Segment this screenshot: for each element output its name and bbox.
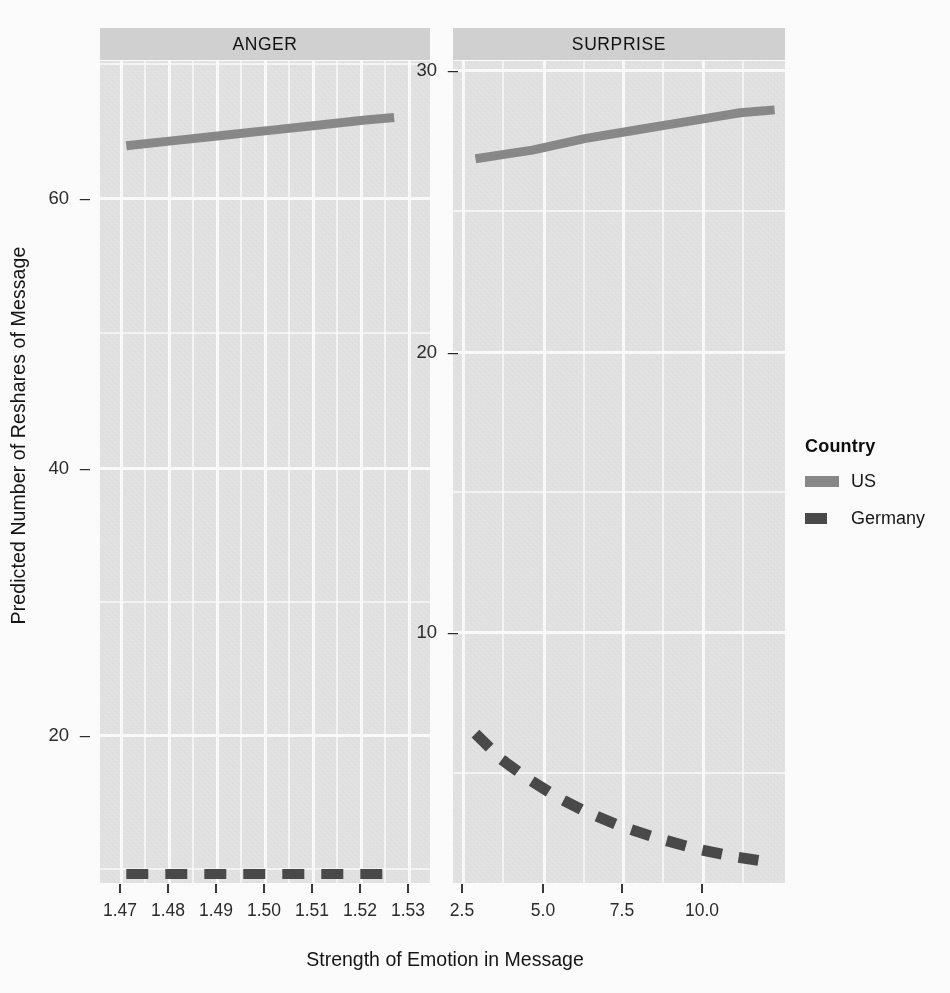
legend-item-us[interactable]: US	[805, 471, 945, 492]
x-tick-mark-anger	[407, 884, 409, 893]
x-tick-label-anger: 1.50	[247, 900, 281, 921]
y-tick-label-anger: 60–	[44, 187, 90, 209]
x-tick-mark-anger	[119, 884, 121, 893]
facet-strip-anger: ANGER	[100, 28, 430, 60]
series-layer-anger	[100, 61, 430, 883]
chart-figure: Predicted Number of Reshares of Message …	[0, 0, 950, 993]
x-tick-label-surprise: 5.0	[531, 900, 555, 921]
line-series-germany-surprise	[475, 734, 774, 863]
series-layer-surprise	[453, 61, 785, 883]
x-tick-label-anger: 1.49	[199, 900, 233, 921]
x-tick-mark-surprise	[701, 884, 703, 893]
line-series-us-surprise	[475, 110, 774, 159]
legend-label-us: US	[851, 471, 876, 492]
x-tick-label-surprise: 7.5	[610, 900, 634, 921]
facet-strip-surprise: SURPRISE	[453, 28, 785, 60]
x-tick-mark-anger	[215, 884, 217, 893]
x-tick-mark-anger	[167, 884, 169, 893]
legend-key-germany-line-icon	[805, 513, 827, 524]
legend: Country US Germany	[805, 436, 945, 545]
x-tick-mark-surprise	[542, 884, 544, 893]
facet-strip-label-anger: ANGER	[232, 34, 297, 55]
x-tick-label-surprise: 10.0	[685, 900, 719, 921]
facet-strip-label-surprise: SURPRISE	[572, 34, 666, 55]
x-tick-label-anger: 1.52	[343, 900, 377, 921]
legend-item-germany[interactable]: Germany	[805, 508, 945, 529]
panel-anger	[100, 61, 430, 883]
legend-key-us-line-icon	[805, 476, 839, 487]
legend-label-germany: Germany	[851, 508, 925, 529]
x-tick-mark-anger	[263, 884, 265, 893]
y-tick-label-anger: 40–	[44, 457, 90, 479]
y-axis-title: Predicted Number of Reshares of Message	[2, 0, 36, 870]
y-tick-label-anger: 20–	[44, 724, 90, 746]
legend-title: Country	[805, 436, 945, 457]
y-tick-label-surprise: 20–	[412, 341, 458, 363]
y-tick-label-surprise: 10–	[412, 621, 458, 643]
y-tick-label-surprise: 30–	[412, 59, 458, 81]
x-tick-mark-anger	[311, 884, 313, 893]
x-tick-label-anger: 1.53	[391, 900, 425, 921]
x-axis-title: Strength of Emotion in Message	[0, 948, 950, 971]
x-tick-label-anger: 1.47	[103, 900, 137, 921]
line-series-us-anger	[126, 118, 394, 146]
x-tick-mark-anger	[359, 884, 361, 893]
y-axis-title-text: Predicted Number of Reshares of Message	[8, 246, 31, 624]
x-tick-label-anger: 1.51	[295, 900, 329, 921]
panel-surprise	[453, 61, 785, 883]
x-tick-label-surprise: 2.5	[450, 900, 474, 921]
x-axis-title-text: Strength of Emotion in Message	[306, 948, 584, 971]
x-tick-mark-surprise	[461, 884, 463, 893]
x-tick-label-anger: 1.48	[151, 900, 185, 921]
x-tick-mark-surprise	[621, 884, 623, 893]
